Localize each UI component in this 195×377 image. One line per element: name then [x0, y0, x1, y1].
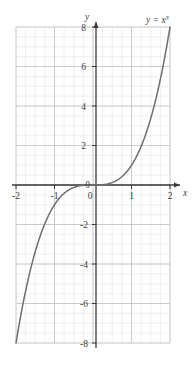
x-tick-label-2: 2: [168, 191, 173, 201]
y-tick-label-neg6: -6: [80, 299, 88, 309]
curve-equation-base: y = x: [145, 15, 166, 25]
y-tick-label-0: 0: [85, 180, 90, 190]
x-axis-label: x: [182, 188, 188, 198]
x-tick-label-neg2: -2: [12, 191, 20, 201]
x-tick-label-neg1: -1: [51, 191, 59, 201]
y-tick-label-neg4: -4: [80, 260, 88, 270]
y-tick-label-8: 8: [81, 23, 86, 33]
graph-figure: 8 6 4 2 0 -2 -4 -6 -8 -2 -1 0 1 2 y x y …: [0, 0, 195, 377]
x-tick-label-0: 0: [88, 191, 93, 201]
y-tick-label-6: 6: [81, 62, 86, 72]
x-tick-label-1: 1: [129, 191, 134, 201]
y-tick-label-neg2: -2: [80, 220, 88, 230]
cubic-function-plot: 8 6 4 2 0 -2 -4 -6 -8 -2 -1 0 1 2 y x y …: [0, 0, 195, 377]
y-tick-label-neg8: -8: [80, 339, 88, 349]
y-tick-label-4: 4: [81, 102, 86, 112]
y-axis-label: y: [84, 12, 90, 22]
y-tick-label-2: 2: [81, 141, 86, 151]
